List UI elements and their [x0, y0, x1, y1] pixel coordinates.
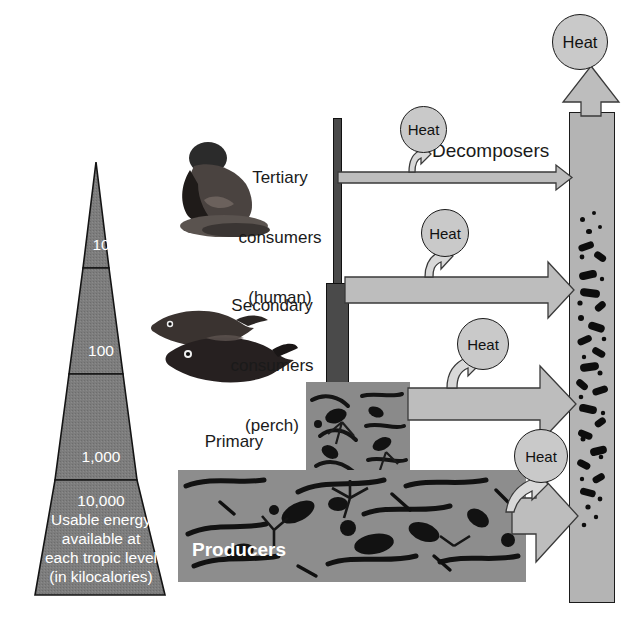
arrow-secondary-to-decomposers: [345, 262, 574, 318]
arrow-decomposer-to-heat: [563, 66, 619, 116]
heat-bubble-secondary: Heat: [421, 209, 469, 257]
heat-bubble-tertiary: Heat: [400, 106, 447, 153]
heat-bubble-top: Heat: [552, 14, 608, 70]
diagram-canvas: 10 100 1,000 10,000 Usable energy availa…: [0, 0, 643, 626]
heat-bubble-primary: Heat: [457, 318, 509, 370]
heat-bubble-producers: Heat: [514, 429, 568, 483]
energy-flow-arrows: [0, 0, 643, 626]
arrow-tertiary-to-decomposers: [338, 165, 572, 190]
